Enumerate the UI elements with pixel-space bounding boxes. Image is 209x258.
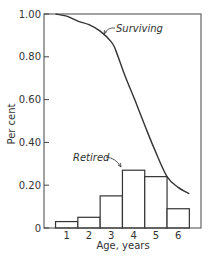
x-tick-label: 1: [64, 230, 70, 241]
retired-bar: [145, 177, 167, 228]
retired-bar: [100, 196, 122, 228]
y-tick-label: 1.00: [19, 9, 41, 20]
y-tick-label: 0.20: [19, 180, 41, 191]
y-axis-label: Per cent: [6, 103, 17, 144]
y-tick-label: 0.80: [19, 51, 41, 62]
retired-bar: [56, 222, 78, 228]
retired-bar: [167, 209, 189, 228]
x-tick-label: 2: [86, 230, 92, 241]
y-tick-label: 0: [35, 223, 41, 234]
chart-container: 00.200.400.600.801.00 123456 Age, years …: [0, 0, 209, 258]
chart-svg: 00.200.400.600.801.00 123456 Age, years …: [0, 0, 209, 258]
y-tick-label: 0.40: [19, 137, 41, 148]
x-axis-label: Age, years: [96, 240, 149, 251]
surviving-line: [56, 14, 190, 194]
x-tick-label: 5: [153, 230, 159, 241]
retired-bar: [122, 170, 144, 228]
y-tick-label: 0.60: [19, 94, 41, 105]
retired-bar: [78, 217, 100, 228]
surviving-annotation: Surviving: [116, 23, 163, 34]
retired-annotation: Retired: [73, 152, 110, 163]
x-tick-label: 6: [175, 230, 181, 241]
